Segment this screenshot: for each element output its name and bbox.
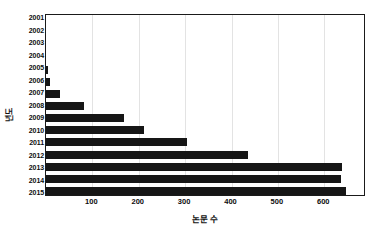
y-tick-label: 2012 [18,152,44,159]
bar-row [46,51,365,63]
bar [46,114,124,122]
bar [46,78,50,86]
y-tick-label: 2002 [18,27,44,34]
bar [46,138,187,146]
bar [46,126,144,134]
y-tick-label: 2003 [18,39,44,46]
y-tick-label: 2015 [18,189,44,196]
y-tick-label: 2013 [18,164,44,171]
bar-row [46,39,365,51]
y-tick-label: 2004 [18,52,44,59]
y-tick-label: 2010 [18,127,44,134]
bar [46,102,84,110]
y-axis-title: 년도 [0,92,16,136]
x-tick-label: 300 [178,198,191,206]
y-axis-tick-labels: 2001200220032004200520062007200820092010… [18,14,44,196]
bar-row [46,161,365,173]
bar-row [46,185,365,196]
y-tick-label: 2008 [18,102,44,109]
y-axis-title-text: 년도 [3,107,14,121]
bar-row [46,76,365,88]
x-tick-label: 400 [224,198,237,206]
bar-row [46,173,365,185]
plot-area [45,14,365,196]
x-tick-label: 600 [317,198,330,206]
y-tick-label: 2011 [18,139,44,146]
bar-row [46,88,365,100]
x-tick-label: 500 [271,198,284,206]
bar-row [46,15,365,27]
x-tick-label: 200 [131,198,144,206]
bar-chart: 년도 2001200220032004200520062007200820092… [0,0,370,236]
bar [46,151,248,159]
y-tick-label: 2006 [18,77,44,84]
bar-row [46,124,365,136]
x-tick-label: 100 [85,198,98,206]
bar-row [46,112,365,124]
bar [46,163,342,171]
bar [46,175,341,183]
bar [46,90,60,98]
bar-row [46,148,365,160]
y-tick-label: 2014 [18,177,44,184]
x-axis-tick-labels: 100200300400500600 [0,198,370,210]
bar-row [46,64,365,76]
y-tick-label: 2001 [18,14,44,21]
y-tick-label: 2007 [18,89,44,96]
y-tick-label: 2009 [18,114,44,121]
bar [46,66,48,74]
bar-row [46,136,365,148]
bar-row [46,100,365,112]
x-axis-title: 논문 수 [45,212,365,224]
y-tick-label: 2005 [18,64,44,71]
bars-layer [46,15,364,195]
bar [46,187,346,195]
bar-row [46,27,365,39]
